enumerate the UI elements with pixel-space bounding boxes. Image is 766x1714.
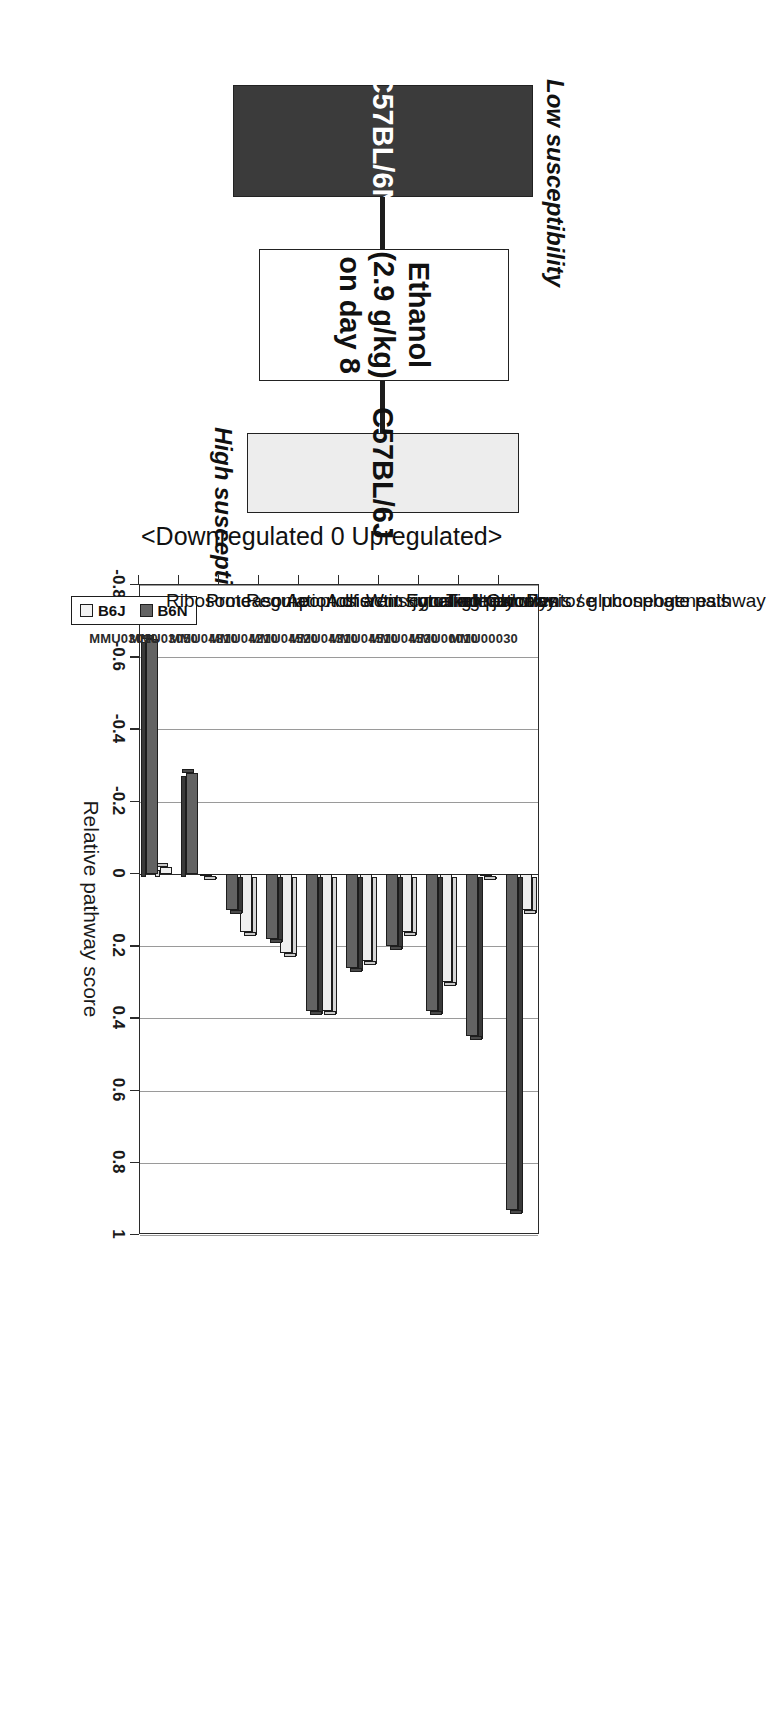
bar-top-face (278, 877, 283, 942)
bar-side-face (430, 1011, 442, 1015)
bar-b6j-mmu03050 (200, 874, 212, 876)
category-tick (218, 575, 219, 584)
flow-box-strain-high: C57BL/6J (247, 433, 519, 513)
legend-swatch (140, 604, 153, 617)
bar-top-face (438, 877, 443, 1014)
category-axis (139, 560, 539, 584)
bar-side-face (204, 876, 216, 880)
bar-face (506, 874, 518, 1210)
bar-top-face (332, 877, 337, 1014)
axis-tick (130, 728, 139, 729)
legend-label: B6J (98, 602, 126, 619)
bar-b6j-mmu03010 (160, 867, 172, 874)
gridline (140, 657, 538, 658)
axis-tick (130, 873, 139, 874)
bar-top-face (252, 877, 257, 935)
bar-top-face (398, 877, 403, 949)
bar-face (160, 867, 172, 874)
axis-tick-label: 0.8 (108, 1150, 128, 1174)
bar-b6n-mmu04510 (386, 874, 398, 946)
axis-tick (130, 945, 139, 946)
category-tick (138, 575, 139, 584)
bar-top-face (318, 877, 323, 1014)
gridline (140, 729, 538, 730)
bar-b6n-mmu04310 (346, 874, 358, 968)
axis-tick (130, 1090, 139, 1091)
bar-face (386, 874, 398, 946)
bar-top-face (532, 877, 537, 913)
category-tick (498, 575, 499, 584)
bar-top-face (452, 877, 457, 985)
bar-top-face (518, 877, 523, 1213)
flow-box-treatment-line2: (2.9 g/kg) (368, 251, 400, 378)
bar-side-face (524, 910, 536, 914)
bar-top-face (412, 877, 417, 935)
category-tick (258, 575, 259, 584)
flow-box-treatment: Ethanol (2.9 g/kg) on day 8 (259, 249, 509, 381)
axis-tick (130, 656, 139, 657)
bar-side-face (404, 932, 416, 936)
flow-connector-left (380, 197, 385, 249)
axis-tick-label: 0 (108, 868, 128, 877)
bar-side-face (350, 968, 362, 972)
flow-box-strain-low: C57BL/6N (233, 85, 533, 197)
bar-side-face (444, 982, 456, 986)
axis-tick-label: 0.4 (108, 1006, 128, 1030)
gridline (140, 1091, 538, 1092)
flow-box-strain-high-label: C57BL/6J (367, 407, 399, 539)
axis-tick (130, 1017, 139, 1018)
bar-face (266, 874, 278, 939)
bar-b6n-mmu04520 (306, 874, 318, 1011)
bar-b6n-mmu04210 (266, 874, 278, 939)
pathway-id-label: MMU03010 (89, 631, 158, 646)
axis-tick-label: -0.6 (108, 642, 128, 671)
gridline (140, 802, 538, 803)
axis-tick-label: -0.8 (108, 569, 128, 598)
bar-face (480, 874, 492, 876)
flow-box-treatment-line3: on day 8 (333, 256, 365, 374)
bar-b6n-mmu03050 (186, 773, 198, 874)
axis-tick (130, 1162, 139, 1163)
pathway-label: Ribosome (166, 590, 252, 612)
category-tick (178, 575, 179, 584)
bar-side-face (324, 1011, 336, 1015)
bar-face (226, 874, 238, 910)
axis-tick (130, 584, 139, 585)
bar-b6n-mmu04530 (426, 874, 438, 1011)
bar-side-face (244, 932, 256, 936)
bar-face (146, 639, 158, 874)
axis-tick-label: 0.2 (108, 933, 128, 957)
bar-face (346, 874, 358, 968)
bar-side-face (284, 953, 296, 957)
bar-face (186, 773, 198, 874)
direction-annotation: <Downregulated 0 Upregulated> (141, 522, 502, 551)
bar-top-face (372, 877, 377, 964)
bar-b6n-mmu00010 (466, 874, 478, 1037)
bar-side-face (470, 1036, 482, 1040)
flow-caption-low: Low susceptibility (541, 79, 569, 287)
category-tick (338, 575, 339, 584)
flow-box-treatment-line1: Ethanol (402, 262, 434, 368)
legend-swatch (80, 604, 93, 617)
axis-tick-label: 0.6 (108, 1078, 128, 1102)
bar-top-face (478, 877, 483, 1040)
axis-tick (130, 1234, 139, 1235)
gridline (140, 1235, 538, 1236)
flow-box-strain-low-label: C57BL/6N (367, 73, 399, 210)
axis-tick (130, 801, 139, 802)
bar-b6n-mmu03010 (146, 639, 158, 874)
axis-title: Relative pathway score (79, 584, 103, 1234)
bar-top-face (358, 877, 363, 971)
bar-side-face (270, 939, 282, 943)
axis-tick-label: -0.4 (108, 714, 128, 743)
gridline (140, 1163, 538, 1164)
legend-item-b6j: B6J (80, 602, 126, 619)
chart-plot-area (139, 584, 539, 1234)
experiment-flow-diagram: Low susceptibility C57BL/6N Ethanol (2.9… (111, 75, 571, 515)
bar-face (426, 874, 438, 1011)
bar-face (200, 874, 212, 876)
category-tick (378, 575, 379, 584)
bar-side-face (364, 961, 376, 965)
bar-face (306, 874, 318, 1011)
